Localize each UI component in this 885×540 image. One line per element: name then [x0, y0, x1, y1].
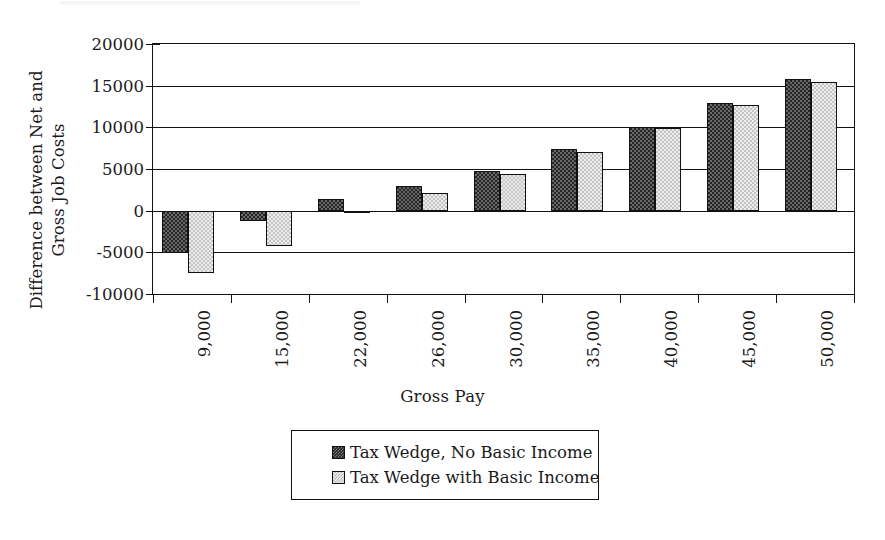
y-axis-tick	[146, 86, 160, 87]
bar	[240, 211, 266, 222]
y-axis-tick	[146, 127, 160, 128]
legend-item-1[interactable]: Tax Wedge with Basic Income	[292, 465, 598, 490]
bar	[422, 193, 448, 211]
chart-legend: Tax Wedge, No Basic Income Tax Wedge wit…	[291, 430, 599, 500]
bar	[655, 128, 681, 211]
bar	[629, 127, 655, 211]
x-axis-tick	[698, 294, 699, 303]
bar	[551, 149, 577, 211]
y-axis-tick	[146, 211, 160, 212]
x-axis-tick	[387, 294, 388, 303]
legend-label-0: Tax Wedge, No Basic Income	[350, 441, 592, 464]
x-axis-tick-label: 35,000	[584, 310, 603, 430]
y-axis-title: Difference between Net and Gross Job Cos…	[26, 40, 70, 340]
y-axis-tick-label: -5000	[96, 243, 144, 262]
x-axis-tick	[465, 294, 466, 303]
x-axis-tick-label: 40,000	[662, 310, 681, 430]
legend-item-0[interactable]: Tax Wedge, No Basic Income	[292, 440, 598, 465]
bar	[811, 82, 837, 211]
y-axis-tick-label: 15000	[92, 76, 145, 95]
y-axis-tick-label: 5000	[102, 160, 144, 179]
legend-swatch-icon-0	[332, 446, 345, 459]
x-axis-tick	[542, 294, 543, 303]
x-axis-tick-label: 26,000	[429, 310, 448, 430]
y-axis-tick-label: 10000	[92, 118, 145, 137]
y-axis-tick-label: 0	[134, 201, 145, 220]
x-axis-tick	[309, 294, 310, 303]
x-axis-tick-label: 15,000	[273, 310, 292, 430]
plot-area: 20000150001000050000-5000-10000	[152, 43, 855, 295]
legend-swatch-icon-1	[332, 471, 345, 484]
x-axis-tick	[620, 294, 621, 303]
scan-artifact	[60, 1, 360, 5]
x-axis-tick-label: 45,000	[740, 310, 759, 430]
y-axis-tick	[146, 169, 160, 170]
bar	[266, 211, 292, 246]
x-axis-tick-label: 9,000	[195, 310, 214, 430]
y-axis-tick-label: 20000	[92, 35, 145, 54]
bar	[733, 105, 759, 211]
bar	[500, 174, 526, 210]
x-axis-tick	[231, 294, 232, 303]
bar	[785, 79, 811, 211]
y-axis-tick	[146, 252, 160, 253]
x-axis-tick-label: 30,000	[507, 310, 526, 430]
bar	[707, 103, 733, 211]
legend-label-1: Tax Wedge with Basic Income	[350, 466, 599, 489]
bar	[188, 211, 214, 274]
x-axis-tick	[854, 294, 855, 303]
bar	[318, 199, 344, 211]
y-axis-tick	[146, 44, 160, 45]
chart-figure: Difference between Net and Gross Job Cos…	[0, 0, 885, 540]
x-axis-tick-label: 50,000	[818, 310, 837, 430]
bar	[162, 211, 188, 254]
x-axis-tick	[776, 294, 777, 303]
gridline	[153, 252, 854, 253]
y-axis-title-text: Difference between Net and Gross Job Cos…	[27, 70, 68, 309]
gridline	[153, 86, 854, 87]
bar	[396, 186, 422, 211]
x-axis-tick-label: 22,000	[351, 310, 370, 430]
bar	[474, 171, 500, 211]
x-axis-tick	[153, 294, 154, 303]
bar	[344, 211, 370, 213]
bar	[577, 152, 603, 211]
y-axis-tick-label: -10000	[86, 285, 144, 304]
